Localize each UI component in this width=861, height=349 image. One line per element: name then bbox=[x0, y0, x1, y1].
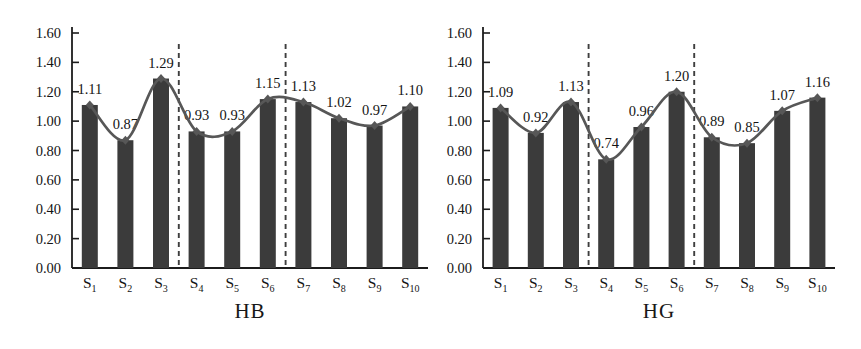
bar-s2 bbox=[117, 140, 133, 268]
bar-s4 bbox=[189, 131, 205, 268]
bar-s5 bbox=[633, 127, 649, 268]
value-label: 0.85 bbox=[734, 119, 759, 135]
x-tick-label: S3 bbox=[564, 274, 578, 294]
y-tick-label: 0.40 bbox=[447, 201, 472, 217]
bar-s8 bbox=[331, 118, 347, 268]
y-tick-label: 0.20 bbox=[36, 231, 61, 247]
value-label: 1.13 bbox=[291, 78, 316, 94]
x-tick-label: S8 bbox=[740, 274, 754, 294]
y-tick-label: 1.40 bbox=[447, 54, 472, 70]
y-tick-label: 0.00 bbox=[447, 260, 472, 276]
x-tick-label: S1 bbox=[83, 274, 97, 294]
bar-s6 bbox=[669, 92, 685, 268]
x-tick-label: S9 bbox=[775, 274, 789, 294]
x-tick-label: S2 bbox=[529, 274, 543, 294]
y-tick-label: 0.00 bbox=[36, 260, 61, 276]
x-tick-label: S6 bbox=[670, 274, 684, 294]
bar-s10 bbox=[809, 98, 825, 268]
value-label: 1.20 bbox=[664, 68, 689, 84]
value-label: 1.09 bbox=[488, 84, 513, 100]
value-label: 1.16 bbox=[805, 74, 830, 90]
bar-s9 bbox=[367, 126, 383, 268]
x-tick-label: S4 bbox=[190, 274, 204, 294]
y-tick-label: 0.60 bbox=[36, 172, 61, 188]
chart-title-hb: HB bbox=[190, 299, 310, 323]
y-tick-label: 0.80 bbox=[447, 143, 472, 159]
y-tick-label: 0.20 bbox=[447, 231, 472, 247]
x-tick-label: S10 bbox=[401, 274, 420, 294]
x-tick-label: S3 bbox=[154, 274, 168, 294]
value-label: 1.10 bbox=[398, 82, 423, 98]
x-tick-label: S7 bbox=[297, 274, 311, 294]
value-label: 1.07 bbox=[770, 87, 795, 103]
bar-s6 bbox=[260, 99, 276, 268]
x-tick-label: S5 bbox=[635, 274, 649, 294]
x-tick-label: S6 bbox=[261, 274, 275, 294]
value-label: 1.02 bbox=[326, 94, 351, 110]
x-tick-label: S10 bbox=[808, 274, 827, 294]
y-tick-label: 1.40 bbox=[36, 54, 61, 70]
bar-s3 bbox=[563, 102, 579, 268]
dual-bar-line-chart: 0.000.200.400.600.801.001.201.401.601.11… bbox=[0, 0, 861, 349]
y-tick-label: 0.60 bbox=[447, 172, 472, 188]
y-tick-label: 1.20 bbox=[447, 84, 472, 100]
value-label: 0.92 bbox=[523, 109, 548, 125]
x-tick-label: S7 bbox=[705, 274, 719, 294]
bar-s2 bbox=[528, 133, 544, 268]
y-tick-label: 1.00 bbox=[36, 113, 61, 129]
chart-title-hg: HG bbox=[599, 299, 719, 323]
bar-s3 bbox=[153, 79, 169, 268]
bar-s7 bbox=[704, 137, 720, 268]
bar-s8 bbox=[739, 143, 755, 268]
value-label: 1.15 bbox=[255, 75, 280, 91]
value-label: 0.93 bbox=[220, 107, 245, 123]
bar-s1 bbox=[82, 105, 98, 268]
bar-s1 bbox=[493, 108, 509, 268]
bar-s9 bbox=[774, 111, 790, 268]
x-tick-label: S5 bbox=[225, 274, 239, 294]
bar-s5 bbox=[224, 131, 240, 268]
bar-s7 bbox=[295, 102, 311, 268]
chart-hb: 0.000.200.400.600.801.001.201.401.601.11… bbox=[36, 25, 428, 294]
y-tick-label: 1.20 bbox=[36, 84, 61, 100]
value-label: 0.97 bbox=[362, 102, 387, 118]
y-tick-label: 0.40 bbox=[36, 201, 61, 217]
figure: 0.000.200.400.600.801.001.201.401.601.11… bbox=[0, 0, 861, 349]
chart-hg: 0.000.200.400.600.801.001.201.401.601.09… bbox=[447, 25, 835, 294]
y-tick-label: 1.60 bbox=[36, 25, 61, 41]
y-tick-label: 0.80 bbox=[36, 143, 61, 159]
value-label: 1.29 bbox=[148, 55, 173, 71]
x-tick-label: S4 bbox=[599, 274, 613, 294]
value-label: 1.13 bbox=[558, 78, 583, 94]
y-tick-label: 1.60 bbox=[447, 25, 472, 41]
value-label: 1.11 bbox=[77, 81, 102, 97]
bar-s4 bbox=[598, 159, 614, 268]
x-tick-label: S8 bbox=[332, 274, 346, 294]
y-tick-label: 1.00 bbox=[447, 113, 472, 129]
bar-s10 bbox=[402, 106, 418, 268]
x-tick-label: S1 bbox=[494, 274, 508, 294]
x-tick-label: S9 bbox=[368, 274, 382, 294]
x-tick-label: S2 bbox=[119, 274, 133, 294]
